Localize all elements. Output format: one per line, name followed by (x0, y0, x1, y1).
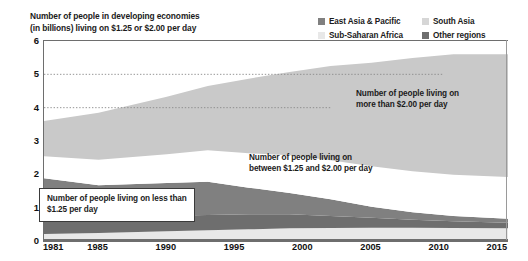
y-axis-tick-1: 1 (9, 201, 39, 212)
y-axis-tick-2: 2 (9, 168, 39, 179)
x-axis-tick-2015: 2015 (487, 242, 507, 252)
y-axis-tick-4: 4 (9, 101, 39, 112)
x-axis-tick-1995: 1995 (224, 242, 244, 252)
annotation-below-line1: Number of people living on less than (47, 193, 187, 204)
chart-page: Number of people in developing economies… (0, 0, 528, 261)
legend-item-sub-saharan-africa: Sub-Saharan Africa (318, 31, 422, 40)
x-axis-tick-2010: 2010 (429, 242, 449, 252)
y-axis-tick-3: 3 (9, 135, 39, 146)
y-axis: 0123456 (3, 40, 39, 240)
legend-swatch-icon-south-asia (422, 18, 429, 25)
annotation-between-line2: between $1.25 and $2.00 per day (249, 163, 372, 174)
x-axis-tick-2005: 2005 (360, 242, 380, 252)
x-axis-tick-1990: 1990 (156, 242, 176, 252)
annotation-between-line1: Number of people living on (249, 152, 372, 163)
y-axis-tick-6: 6 (9, 35, 39, 46)
y-axis-tick-5: 5 (9, 68, 39, 79)
chart-title-line1: Number of people in developing economies (30, 11, 200, 21)
annotation-above-2-dollars: Number of people living on more than $2.… (356, 88, 459, 111)
legend-item-south-asia: South Asia (422, 17, 518, 26)
chart-title: Number of people in developing economies… (30, 11, 270, 34)
legend-label-east-asia-pacific: East Asia & Pacific (329, 17, 401, 26)
legend-item-other-regions: Other regions (422, 31, 518, 40)
x-axis: 19811985199019952000200520102015 (43, 242, 508, 258)
legend-swatch-icon-other-regions (422, 32, 429, 39)
y-axis-tick-0: 0 (9, 235, 39, 246)
annotation-above-2-line1: Number of people living on (356, 88, 459, 99)
chart-legend: East Asia & Pacific South Asia Sub-Sahar… (318, 14, 518, 42)
chart-title-line2: (in billions) living on $1.25 or $2.00 p… (30, 23, 270, 35)
legend-label-sub-saharan-africa: Sub-Saharan Africa (329, 31, 403, 40)
annotation-between-125-and-2: Number of people living on between $1.25… (249, 152, 372, 175)
legend-item-east-asia-pacific: East Asia & Pacific (318, 17, 422, 26)
x-axis-tick-2000: 2000 (292, 242, 312, 252)
legend-label-other-regions: Other regions (433, 31, 485, 40)
legend-label-south-asia: South Asia (433, 17, 474, 26)
plot-right-border (506, 40, 507, 240)
annotation-below-line2: $1.25 per day (47, 204, 187, 215)
annotation-below-125: Number of people living on less than $1.… (39, 188, 195, 222)
legend-swatch-icon-sub-saharan-africa (318, 32, 325, 39)
legend-swatch-icon-east-asia-pacific (318, 18, 325, 25)
x-axis-tick-1981: 1981 (43, 242, 63, 252)
annotation-above-2-line2: more than $2.00 per day (356, 99, 459, 110)
x-axis-tick-1985: 1985 (87, 242, 107, 252)
